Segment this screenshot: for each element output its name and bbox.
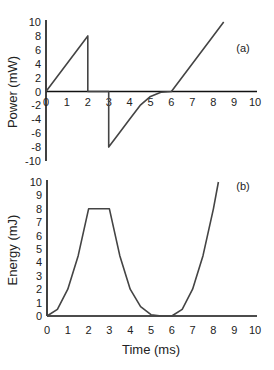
y-tick-label: -8 — [31, 141, 41, 153]
panel-label: (a) — [236, 42, 249, 54]
y-tick-label: 1 — [36, 297, 42, 309]
x-tick-label: 10 — [249, 324, 261, 336]
x-tick-label: 6 — [169, 324, 175, 336]
y-tick-label: 6 — [36, 230, 42, 242]
x-tick-label: 4 — [127, 96, 133, 108]
x-tick-label: 1 — [64, 96, 70, 108]
x-tick-label: 2 — [86, 324, 92, 336]
y-tick-label: 4 — [35, 58, 41, 70]
y-tick-label: 3 — [36, 270, 42, 282]
y-tick-label: 2 — [35, 72, 41, 84]
x-tick-label: 3 — [106, 324, 112, 336]
y-tick-label: 10 — [29, 16, 41, 28]
x-tick-label: 2 — [85, 96, 91, 108]
y-tick-label: 8 — [36, 203, 42, 215]
data-line-energy — [47, 182, 218, 316]
y-tick-label: 8 — [35, 30, 41, 42]
data-line-power — [46, 22, 224, 147]
y-tick-label: 0 — [36, 310, 42, 322]
x-tick-label: 0 — [43, 96, 49, 108]
x-tick-label: 8 — [210, 324, 216, 336]
y-tick-label: 7 — [36, 216, 42, 228]
y-tick-label: 5 — [36, 243, 42, 255]
x-tick-label: 7 — [189, 96, 195, 108]
x-tick-label: 8 — [210, 96, 216, 108]
x-tick-label: 9 — [231, 96, 237, 108]
x-tick-label: 10 — [249, 96, 261, 108]
energy-chart: 109876543210012345678910Energy (mJ)Time … — [5, 176, 261, 357]
x-tick-label: 0 — [44, 324, 50, 336]
y-axis-label: Power (mW) — [5, 56, 20, 128]
y-tick-label: 4 — [36, 256, 42, 268]
x-tick-label: 6 — [168, 96, 174, 108]
y-axis-label: Energy (mJ) — [5, 215, 20, 286]
x-axis-label: Time (ms) — [122, 342, 180, 357]
panel-label: (b) — [236, 180, 249, 192]
y-tick-label: 0 — [35, 86, 41, 98]
y-tick-label: 2 — [36, 283, 42, 295]
x-tick-label: 9 — [231, 324, 237, 336]
power-chart: 1086420-2-4-6-8-10012345678910Power (mW)… — [5, 16, 261, 167]
y-tick-label: -2 — [31, 99, 41, 111]
y-tick-label: -10 — [25, 155, 41, 167]
y-tick-label: -6 — [31, 127, 41, 139]
y-tick-label: 10 — [30, 176, 42, 188]
y-tick-label: 6 — [35, 44, 41, 56]
y-tick-label: -4 — [31, 113, 41, 125]
x-tick-label: 5 — [148, 324, 154, 336]
y-tick-label: 9 — [36, 189, 42, 201]
x-tick-label: 4 — [127, 324, 133, 336]
figure: 1086420-2-4-6-8-10012345678910Power (mW)… — [0, 0, 274, 370]
x-tick-label: 7 — [190, 324, 196, 336]
x-tick-label: 1 — [65, 324, 71, 336]
